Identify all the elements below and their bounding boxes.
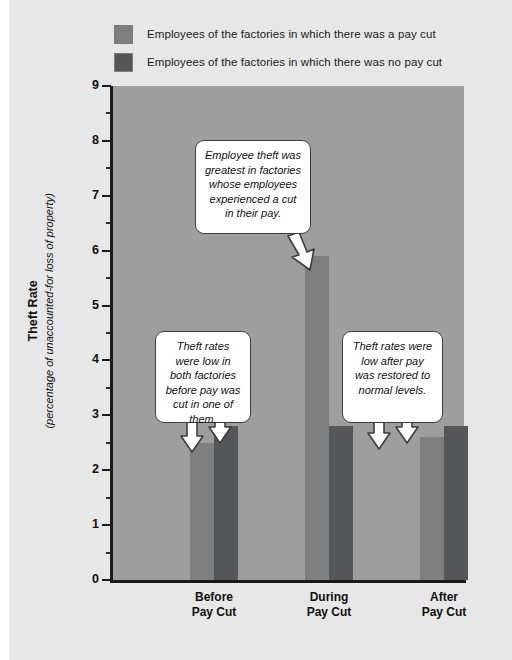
chart-page: Employees of the factories in which ther… <box>9 0 512 660</box>
callout-arrows <box>9 0 512 660</box>
arrow-after-dark <box>396 420 418 443</box>
callout-before: Theft rates were low in both factories b… <box>155 331 251 423</box>
callout-after: Theft rates were low after pay was resto… <box>342 331 443 423</box>
arrow-during <box>288 232 314 270</box>
callout-during: Employee theft was greatest in factories… <box>195 140 311 234</box>
arrow-after-light <box>368 420 390 449</box>
